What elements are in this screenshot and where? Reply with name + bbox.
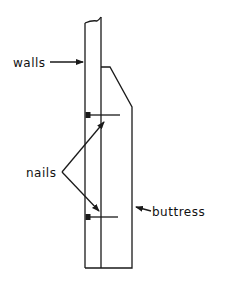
- wall-break-line: [85, 17, 101, 23]
- nails-arrow-upper-icon: [62, 122, 104, 172]
- walls-label: walls: [13, 56, 46, 70]
- nails-arrow-lower-icon: [62, 172, 99, 211]
- buttress: [85, 67, 132, 268]
- nail-lower: [86, 214, 119, 220]
- buttress-outline: [85, 67, 132, 268]
- buttress-arrow-icon: [136, 207, 151, 211]
- wall-buttress-diagram: walls nails buttress: [0, 0, 232, 289]
- nail-upper: [86, 112, 121, 118]
- nails-label: nails: [26, 166, 56, 180]
- buttress-label: buttress: [152, 205, 205, 219]
